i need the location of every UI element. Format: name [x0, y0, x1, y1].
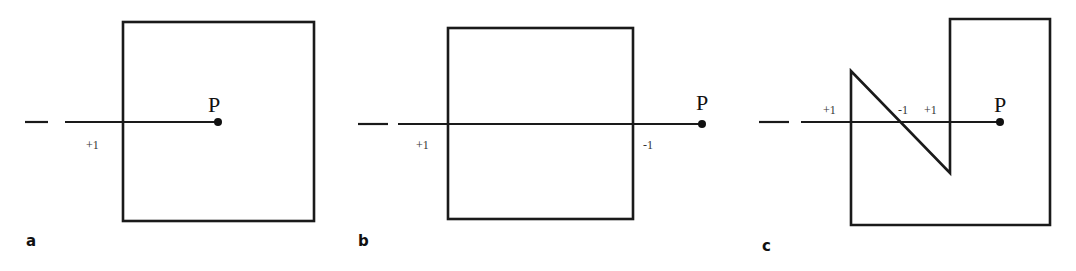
panel-c-crossing-2: -1	[898, 103, 908, 117]
panel-a: P +1 a	[25, 22, 314, 250]
panel-c-crossing-1: +1	[823, 103, 836, 117]
panel-c-crossing-3: +1	[924, 103, 937, 117]
panel-a-label: a	[26, 232, 36, 250]
panel-b-point-label: P	[696, 90, 708, 115]
panel-b-crossing-2: -1	[643, 138, 653, 152]
panel-b-point-p	[698, 120, 706, 128]
panel-b-label: b	[358, 232, 369, 250]
panel-a-point-label: P	[208, 92, 220, 117]
diagram-canvas: P +1 a P +1 -1 b P +1 -1 +1 c	[0, 0, 1076, 271]
panel-c-point-p	[996, 118, 1004, 126]
panel-b: P +1 -1 b	[358, 28, 708, 250]
panel-c-point-label: P	[994, 92, 1006, 117]
panel-a-crossing-1: +1	[86, 138, 99, 152]
panel-a-point-p	[214, 118, 222, 126]
panel-c-label: c	[762, 237, 771, 255]
panel-b-crossing-1: +1	[416, 138, 429, 152]
panel-c: P +1 -1 +1 c	[759, 19, 1050, 255]
